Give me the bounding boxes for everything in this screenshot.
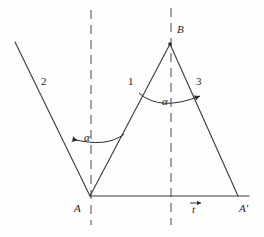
angle-arc-left: [72, 134, 124, 143]
apex-point-marker: [168, 42, 172, 46]
figure-canvas: [0, 0, 264, 237]
ray-left-side-segment: [90, 44, 170, 196]
label-angle-left: α: [84, 132, 90, 143]
ray-right-side-segment: [170, 44, 238, 196]
ray-incident-segment: [15, 42, 90, 196]
geometry-figure: 2 1 3 A A' B α α t: [0, 0, 264, 237]
label-ray-right-side: 3: [196, 76, 202, 87]
label-ray-incident: 2: [41, 76, 47, 87]
angle-arc-right: [139, 93, 200, 103]
label-point-b: B: [177, 24, 184, 35]
label-point-a-prime: A': [239, 203, 248, 214]
label-point-a: A: [74, 203, 81, 214]
label-angle-right: α: [162, 96, 168, 107]
label-ray-left-side: 1: [128, 76, 134, 87]
label-translation-vector: t: [192, 204, 195, 215]
